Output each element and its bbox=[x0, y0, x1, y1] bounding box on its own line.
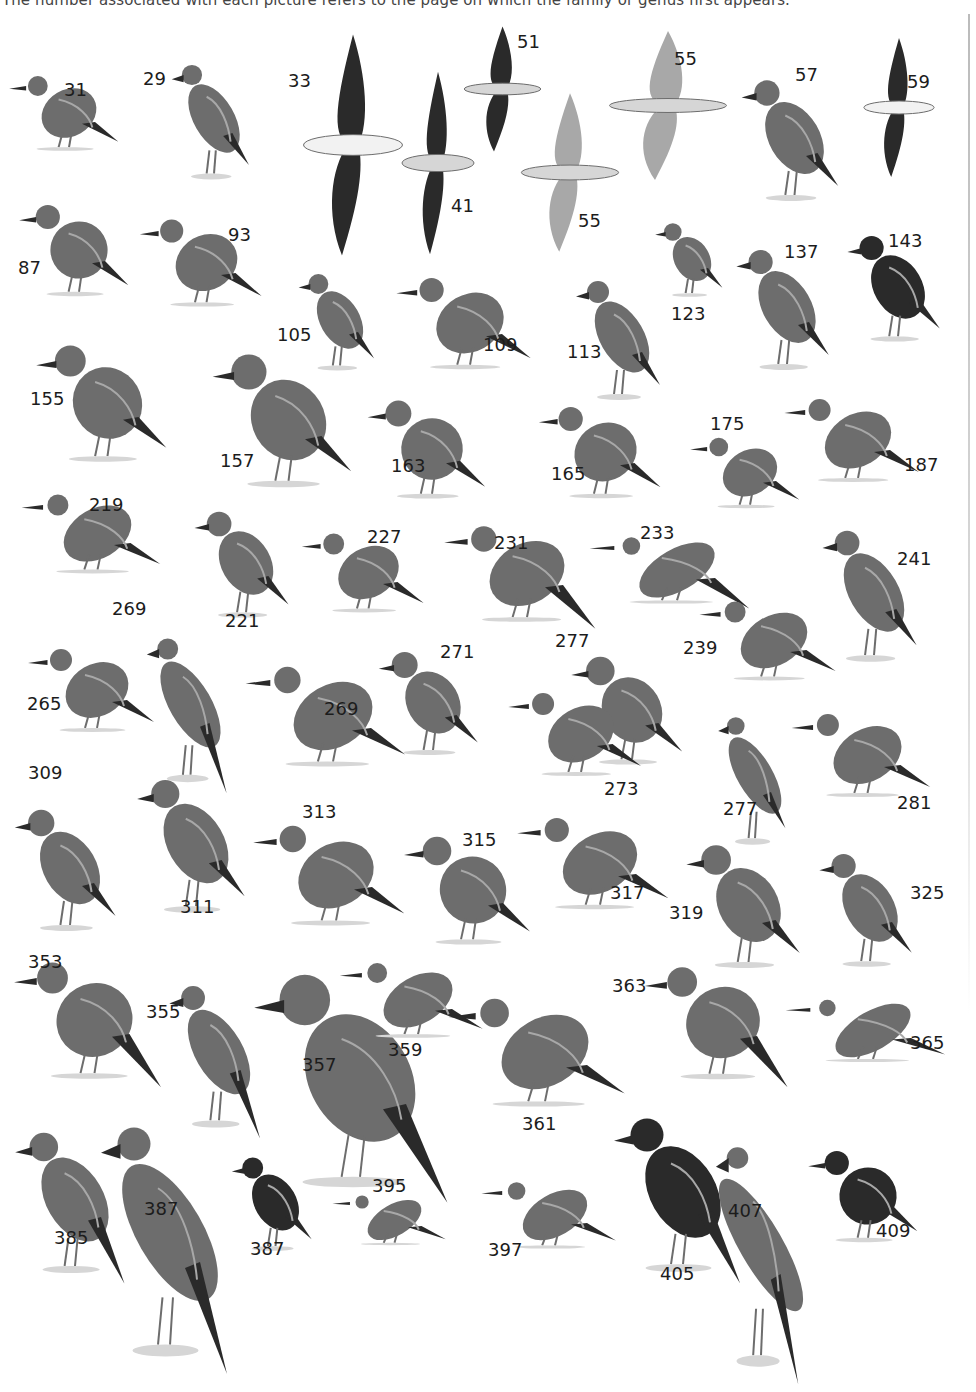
page-number-label: 271 bbox=[440, 643, 474, 661]
bird-illustration-gannet bbox=[516, 90, 624, 255]
bird-illustration-pipit bbox=[778, 993, 968, 1068]
pigeon-icon bbox=[190, 498, 302, 628]
page-number-label: 357 bbox=[302, 1056, 336, 1074]
avocet-icon bbox=[362, 390, 502, 508]
page-number-label: 41 bbox=[451, 197, 474, 215]
bird-illustration-shrike bbox=[815, 838, 925, 978]
page-number-label: 241 bbox=[897, 550, 931, 568]
page-number-label: 219 bbox=[89, 496, 123, 514]
page-number-label: 313 bbox=[302, 803, 336, 821]
albatross-flying-icon bbox=[298, 30, 408, 260]
page-number-label: 309 bbox=[28, 764, 62, 782]
page-number-label: 385 bbox=[54, 1229, 88, 1247]
page-number-label: 157 bbox=[220, 452, 254, 470]
whydah-icon bbox=[712, 1100, 810, 1390]
page-number-label: 363 bbox=[612, 977, 646, 995]
page-number-label: 187 bbox=[904, 456, 938, 474]
page-number-label: 387 bbox=[250, 1240, 284, 1258]
page-number-label: 325 bbox=[910, 884, 944, 902]
plover-icon bbox=[533, 397, 678, 507]
page-number-label: 87 bbox=[18, 259, 41, 277]
falcon-icon bbox=[652, 214, 732, 304]
bird-illustration-penguin bbox=[168, 46, 260, 191]
page-number-label: 59 bbox=[907, 73, 930, 91]
bird-illustration-whydah bbox=[712, 1100, 810, 1390]
bird-illustration-sugarbird bbox=[95, 1085, 245, 1380]
cormorant-icon bbox=[737, 63, 852, 213]
page-number-label: 93 bbox=[228, 226, 251, 244]
bird-illustration-hornbill bbox=[22, 640, 172, 740]
page-number-label: 317 bbox=[610, 884, 644, 902]
page-number-label: 315 bbox=[462, 831, 496, 849]
page-number-label: 239 bbox=[683, 639, 717, 657]
frigatebird-icon bbox=[860, 35, 938, 180]
sparrow-icon bbox=[327, 1190, 462, 1250]
lark-icon bbox=[785, 705, 950, 805]
page-number-label: 359 bbox=[388, 1041, 422, 1059]
page-number-label: 231 bbox=[494, 534, 528, 552]
page-number-label: 227 bbox=[367, 528, 401, 546]
page-number-label: 281 bbox=[897, 794, 931, 812]
cuckooshrike-icon bbox=[10, 793, 130, 943]
bird-illustration-barbet bbox=[502, 684, 660, 784]
sugarbird-icon bbox=[95, 1085, 245, 1380]
bird-illustration-plover bbox=[533, 397, 678, 507]
page-number-label: 143 bbox=[888, 232, 922, 250]
finch-icon bbox=[803, 1141, 933, 1251]
page-number-label: 109 bbox=[483, 336, 517, 354]
bird-illustration-snipe bbox=[778, 390, 938, 490]
page-number-label: 361 bbox=[522, 1115, 556, 1133]
harrier-icon bbox=[390, 268, 550, 378]
page-number-label: 277 bbox=[555, 632, 589, 650]
bird-illustration-bustard bbox=[206, 340, 371, 500]
page-number-label: 265 bbox=[27, 695, 61, 713]
bird-illustration-albatross-flying bbox=[298, 30, 408, 260]
page-number-label: 123 bbox=[671, 305, 705, 323]
bird-illustration-pigeon bbox=[190, 498, 302, 628]
barbet-icon bbox=[502, 684, 660, 784]
eagle-icon bbox=[134, 210, 279, 315]
page-number-label: 55 bbox=[578, 212, 601, 230]
gannet-icon bbox=[516, 90, 624, 255]
page-edge-divider bbox=[968, 14, 970, 1014]
bird-illustration-frigatebird bbox=[860, 35, 938, 180]
bird-illustration-sparrow bbox=[327, 1190, 462, 1250]
page-number-label: 353 bbox=[28, 953, 62, 971]
page-number-label: 273 bbox=[604, 780, 638, 798]
vulture-icon bbox=[14, 195, 144, 305]
bird-illustration-lark bbox=[785, 705, 950, 805]
bird-illustration-vulture bbox=[14, 195, 144, 305]
page-number-label: 175 bbox=[710, 415, 744, 433]
page-number-label: 409 bbox=[876, 1222, 910, 1240]
page-number-label: 319 bbox=[669, 904, 703, 922]
bird-illustration-cormorant bbox=[737, 63, 852, 213]
scrub-robin-icon bbox=[510, 808, 690, 918]
page-number-label: 269 bbox=[324, 700, 358, 718]
page-number-label: 33 bbox=[288, 72, 311, 90]
bustard-icon bbox=[206, 340, 371, 500]
snipe-icon bbox=[778, 390, 938, 490]
bird-illustration-harrier bbox=[390, 268, 550, 378]
penguin-icon bbox=[168, 46, 260, 191]
page-number-label: 355 bbox=[146, 1003, 180, 1021]
page-number-label: 407 bbox=[728, 1202, 762, 1220]
bird-illustration-finch bbox=[803, 1141, 933, 1251]
page-number-label: 277 bbox=[723, 800, 757, 818]
page-caption: The number associated with each picture … bbox=[2, 0, 790, 9]
page-number-label: 365 bbox=[910, 1034, 944, 1052]
page-number-label: 233 bbox=[640, 524, 674, 542]
page-number-label: 395 bbox=[372, 1177, 406, 1195]
page-number-label: 163 bbox=[391, 457, 425, 475]
page-number-label: 137 bbox=[784, 243, 818, 261]
page-number-label: 269 bbox=[112, 600, 146, 618]
bird-illustration-falcon bbox=[652, 214, 732, 304]
page-number-label: 165 bbox=[551, 465, 585, 483]
bird-illustration-cuckooshrike bbox=[10, 793, 130, 943]
page-number-label: 55 bbox=[674, 50, 697, 68]
page-number-label: 57 bbox=[795, 66, 818, 84]
page-number-label: 397 bbox=[488, 1241, 522, 1259]
page-number-label: 29 bbox=[143, 70, 166, 88]
pipit-icon bbox=[778, 993, 968, 1068]
page-number-label: 405 bbox=[660, 1265, 694, 1283]
page-number-label: 113 bbox=[567, 343, 601, 361]
